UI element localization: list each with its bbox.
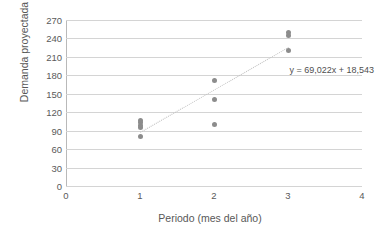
data-point xyxy=(138,118,143,123)
gridline xyxy=(66,186,362,187)
plot-area: y = 69,022x + 18,543 xyxy=(66,20,362,186)
x-axis-tick-labels: 01234 xyxy=(66,190,362,206)
data-point xyxy=(212,78,217,83)
gridline xyxy=(66,20,362,21)
data-point xyxy=(286,48,291,53)
y-tick-label: 210 xyxy=(22,51,62,62)
gridline xyxy=(66,57,362,58)
y-tick-label: 270 xyxy=(22,15,62,26)
data-point xyxy=(212,122,217,127)
y-tick-label: 90 xyxy=(22,125,62,136)
gridline xyxy=(66,38,362,39)
trendline xyxy=(140,47,288,133)
gridline xyxy=(66,131,362,132)
y-tick-label: 60 xyxy=(22,144,62,155)
data-point xyxy=(286,30,291,35)
x-tick-label: 0 xyxy=(51,190,81,201)
y-axis-tick-labels: 0306090120150180210240270 xyxy=(18,20,62,186)
gridline xyxy=(66,168,362,169)
y-tick-label: 180 xyxy=(22,70,62,81)
y-tick-label: 30 xyxy=(22,162,62,173)
gridline xyxy=(66,112,362,113)
gridline xyxy=(66,94,362,95)
data-point xyxy=(212,97,217,102)
x-tick-label: 3 xyxy=(273,190,303,201)
gridline xyxy=(66,149,362,150)
y-tick-label: 150 xyxy=(22,88,62,99)
x-tick-label: 1 xyxy=(125,190,155,201)
trendline-equation: y = 69,022x + 18,543 xyxy=(289,65,374,75)
x-tick-label: 4 xyxy=(347,190,377,201)
data-point xyxy=(138,134,143,139)
y-tick-label: 240 xyxy=(22,33,62,44)
y-tick-label: 120 xyxy=(22,107,62,118)
x-axis-title: Periodo (mes del año) xyxy=(60,212,360,224)
x-tick-label: 2 xyxy=(199,190,229,201)
